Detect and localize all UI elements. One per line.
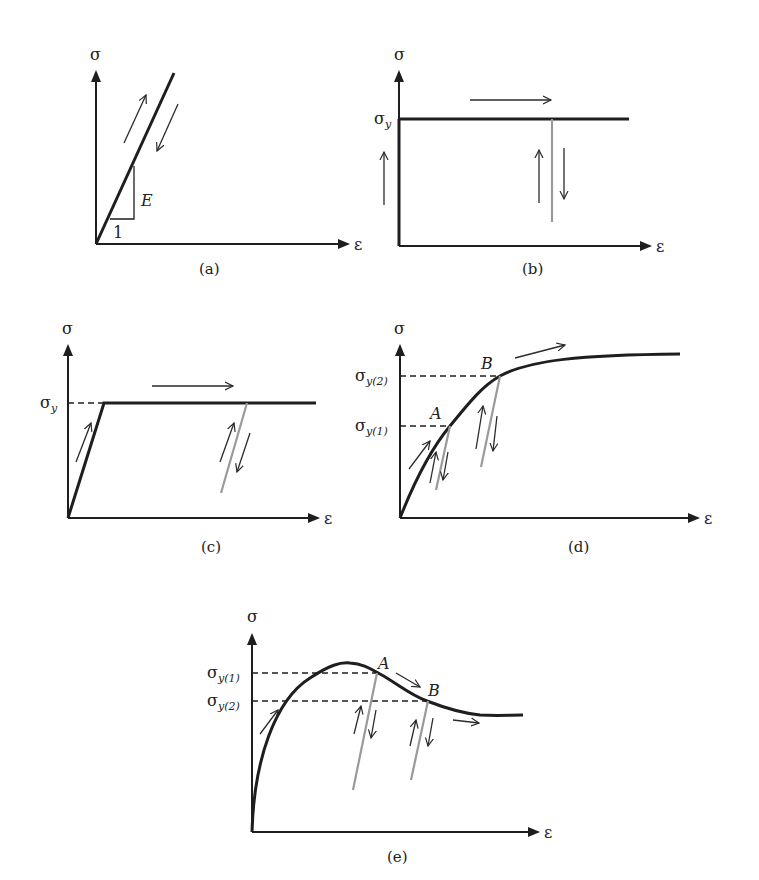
loading-arrow-icon	[409, 441, 430, 469]
unloading-arrow-icon	[157, 104, 178, 151]
y-axis-label: σ	[247, 607, 258, 626]
caption-e: (e)	[387, 848, 408, 866]
flow-arrow-icon	[453, 720, 479, 723]
x-axis-label: ε	[704, 509, 712, 528]
yield1-label: σy(1)	[355, 416, 388, 438]
unload-line-A	[353, 673, 377, 790]
y-axis-label: σ	[394, 45, 405, 64]
reload-arrow-icon-A	[354, 706, 361, 734]
unload-arrow-icon-B	[428, 718, 433, 746]
unload-arrow-icon-A	[371, 710, 376, 738]
panel-e: σ ε σy(1) σy(2) A B (e)	[207, 607, 552, 866]
reload-arrow-icon-B	[410, 720, 416, 746]
x-axis-label: ε	[354, 235, 362, 254]
slope-label-E: E	[140, 191, 153, 210]
x-axis-label: ε	[324, 509, 332, 528]
y-axis-label: σ	[90, 45, 101, 64]
panel-b: σ ε σy (b)	[374, 45, 664, 278]
softening-curve	[252, 663, 523, 832]
x-axis-label: ε	[544, 823, 552, 842]
unloading-arrow-icon	[237, 433, 250, 472]
unload-line-B	[411, 701, 428, 780]
run-label-1: 1	[113, 223, 123, 242]
point-A: A	[428, 404, 442, 423]
yield-label: σy	[374, 109, 392, 131]
point-A: A	[376, 654, 390, 673]
point-B: B	[480, 354, 493, 373]
panel-d: σ ε σy(2) σy(1) A B (d)	[355, 319, 712, 556]
caption-a: (a)	[199, 260, 220, 278]
yield2-label: σy(2)	[207, 691, 240, 713]
yield1-label: σy(1)	[207, 663, 240, 685]
caption-d: (d)	[568, 538, 589, 556]
point-B: B	[427, 681, 440, 700]
unload-arrow-icon-B	[493, 416, 497, 451]
panel-c: σ ε σy (c)	[40, 319, 332, 556]
stress-strain-figure: σ ε E 1 (a) σ ε σy (b) σ ε σy	[0, 0, 759, 880]
caption-c: (c)	[201, 538, 221, 556]
yield-label: σy	[40, 393, 58, 415]
elastic-line	[96, 73, 174, 244]
flow-arrow-icon	[515, 345, 565, 358]
panel-a: σ ε E 1 (a)	[90, 45, 362, 278]
y-axis-label: σ	[62, 319, 73, 338]
y-axis-label: σ	[394, 319, 405, 338]
hardening-curve	[400, 354, 680, 518]
yield2-label: σy(2)	[355, 366, 388, 388]
loading-arrow-icon	[124, 95, 146, 143]
reload-arrow-icon-A	[430, 452, 436, 483]
elastic-plastic-curve	[68, 403, 316, 518]
x-axis-label: ε	[656, 237, 664, 256]
reload-arrow-icon-B	[476, 406, 483, 449]
caption-b: (b)	[522, 260, 543, 278]
slope-triangle	[110, 166, 134, 219]
